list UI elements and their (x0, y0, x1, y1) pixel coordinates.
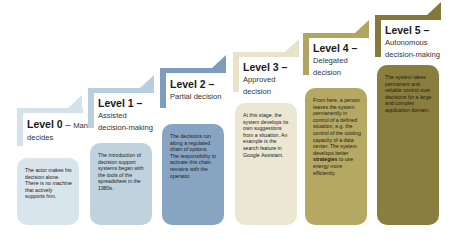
step-arrow-icon (68, 95, 82, 108)
level-name-line2: decision-making (98, 123, 153, 132)
step-bracket-left (303, 33, 309, 75)
level-description: From here, a person leaves the system pe… (313, 97, 361, 176)
step-arrow-icon (285, 39, 299, 52)
level-description-card: The decisions run along a regulated chai… (162, 124, 224, 225)
level-title: Level 3 – Approved decision (243, 62, 287, 96)
step-bracket-left (233, 52, 239, 92)
step-bracket-left (160, 68, 166, 108)
level-title: Level 5 – Autonomous decision-making (385, 25, 440, 59)
step-bracket-top (375, 15, 441, 20)
step-bracket-top (303, 33, 369, 38)
step-arrow-icon (140, 75, 154, 88)
level-label: Level 1 (98, 97, 134, 109)
level-name: Assisted (98, 111, 127, 120)
level-description: The actor makes his decision alone. Ther… (25, 167, 72, 199)
step-bracket-left (375, 15, 381, 57)
level-description: The system takes permanent and reliable … (385, 74, 431, 113)
level-label: Level 5 (385, 24, 421, 36)
level-name: Man (73, 121, 88, 130)
level-name-line2: decides (27, 133, 53, 142)
level-description-card: The system takes permanent and reliable … (377, 65, 439, 225)
level-name: Delegated (313, 56, 348, 65)
level-name-line2: decision (313, 68, 341, 77)
level-description: At this stage, the system develops its o… (243, 112, 288, 158)
level-description-card: The introduction of decision support sys… (90, 143, 152, 225)
step-arrow-icon (355, 20, 369, 33)
step-bracket-top (233, 52, 299, 57)
step-arrow-icon (427, 2, 441, 15)
level-name: Partial decision (170, 92, 222, 101)
step-bracket-top (88, 88, 154, 93)
step-arrow-icon (212, 55, 226, 68)
level-name-line2: decision (243, 87, 271, 96)
step-bracket-left (17, 108, 23, 146)
step-bracket-top (160, 68, 226, 73)
step-bracket-left (88, 88, 94, 128)
level-title: Level 2 – Partial decision (170, 79, 222, 102)
level-title: Level 4 – Delegated decision (313, 43, 357, 77)
level-description-card: From here, a person leaves the system pe… (305, 88, 367, 225)
level-label: Level 2 (170, 78, 206, 90)
level-description-card: At this stage, the system develops its o… (235, 103, 297, 225)
level-name-line2: decision-making (385, 50, 440, 59)
level-name: Autonomous (385, 38, 428, 47)
level-title: Level 0 – Man decides (27, 119, 88, 142)
level-description: The introduction of decision support sys… (98, 152, 144, 191)
level-description-card: The actor makes his decision alone. Ther… (17, 158, 79, 225)
step-bracket-top (17, 108, 83, 113)
level-title: Level 1 – Assisted decision-making (98, 98, 153, 132)
level-label: Level 0 (27, 118, 63, 130)
level-label: Level 4 (313, 42, 349, 54)
level-name: Approved (243, 75, 276, 84)
level-label: Level 3 (243, 61, 279, 73)
level-description: The decisions run along a regulated chai… (170, 133, 216, 179)
